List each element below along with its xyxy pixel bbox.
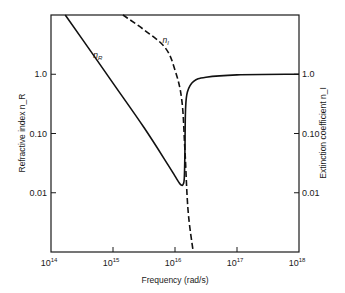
y-right-tick-label: 0.01	[302, 188, 320, 198]
x-tick-label: 1017	[227, 257, 244, 268]
curve-label-n-i: nI	[163, 35, 170, 46]
y-left-tick-label: 0.10	[29, 129, 47, 139]
plot-frame	[51, 15, 299, 252]
y-axis-right-title: Extinction coefficient n_I	[318, 87, 328, 179]
x-tick-label: 1016	[165, 257, 182, 268]
x-axis-title: Frequency (rad/s)	[141, 275, 208, 285]
x-tick-label: 1015	[103, 257, 120, 268]
y-axis-right-ticks: 1.00.100.01	[294, 69, 320, 198]
curve-label-n-r: nR	[93, 50, 103, 61]
x-tick-label: 1014	[41, 257, 58, 268]
y-axis-left-title: Refractive index n_R	[17, 94, 27, 173]
y-right-tick-label: 1.0	[302, 69, 315, 79]
curves	[65, 15, 299, 250]
x-axis-ticks: 10141015101610171018	[41, 247, 306, 268]
curve-n-i	[123, 15, 193, 250]
x-tick-label: 1018	[289, 257, 306, 268]
chart: 10141015101610171018 1.00.100.01 1.00.10…	[0, 0, 345, 293]
y-axis-left-ticks: 1.00.100.01	[29, 69, 56, 198]
y-right-tick-label: 0.10	[302, 129, 320, 139]
y-left-tick-label: 1.0	[34, 69, 47, 79]
curve-labels: nRnI	[93, 35, 169, 61]
y-left-tick-label: 0.01	[29, 188, 47, 198]
